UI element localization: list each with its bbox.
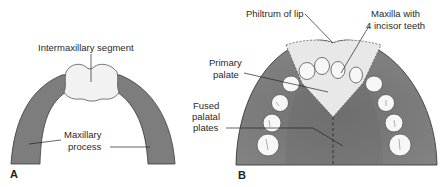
label-maxillary-process-line2: process (68, 141, 101, 152)
label-fused-palatal-line1: Fused (193, 100, 219, 111)
panel-b-drawing (226, 14, 437, 165)
panel-letter-a: A (10, 168, 18, 180)
label-philtrum-of-lip: Philtrum of lip (246, 8, 304, 19)
label-maxillary-process-line1: Maxillary (64, 129, 101, 140)
panel-letter-b: B (238, 169, 246, 181)
label-maxilla-line2: 4 incisor teeth (366, 20, 425, 31)
embryology-palate-figure: Intermaxillary segment Maxillary process… (0, 0, 443, 187)
label-maxilla-line1: Maxilla with (371, 8, 420, 19)
label-fused-palatal-line2: palatal (192, 111, 220, 122)
label-fused-palatal-line3: plates (193, 122, 218, 133)
label-intermaxillary-segment: Intermaxillary segment (38, 42, 134, 53)
label-primary-palate-line2: palate (213, 69, 239, 80)
intermaxillary-segment (64, 64, 119, 101)
label-primary-palate-line1: Primary (209, 57, 242, 68)
